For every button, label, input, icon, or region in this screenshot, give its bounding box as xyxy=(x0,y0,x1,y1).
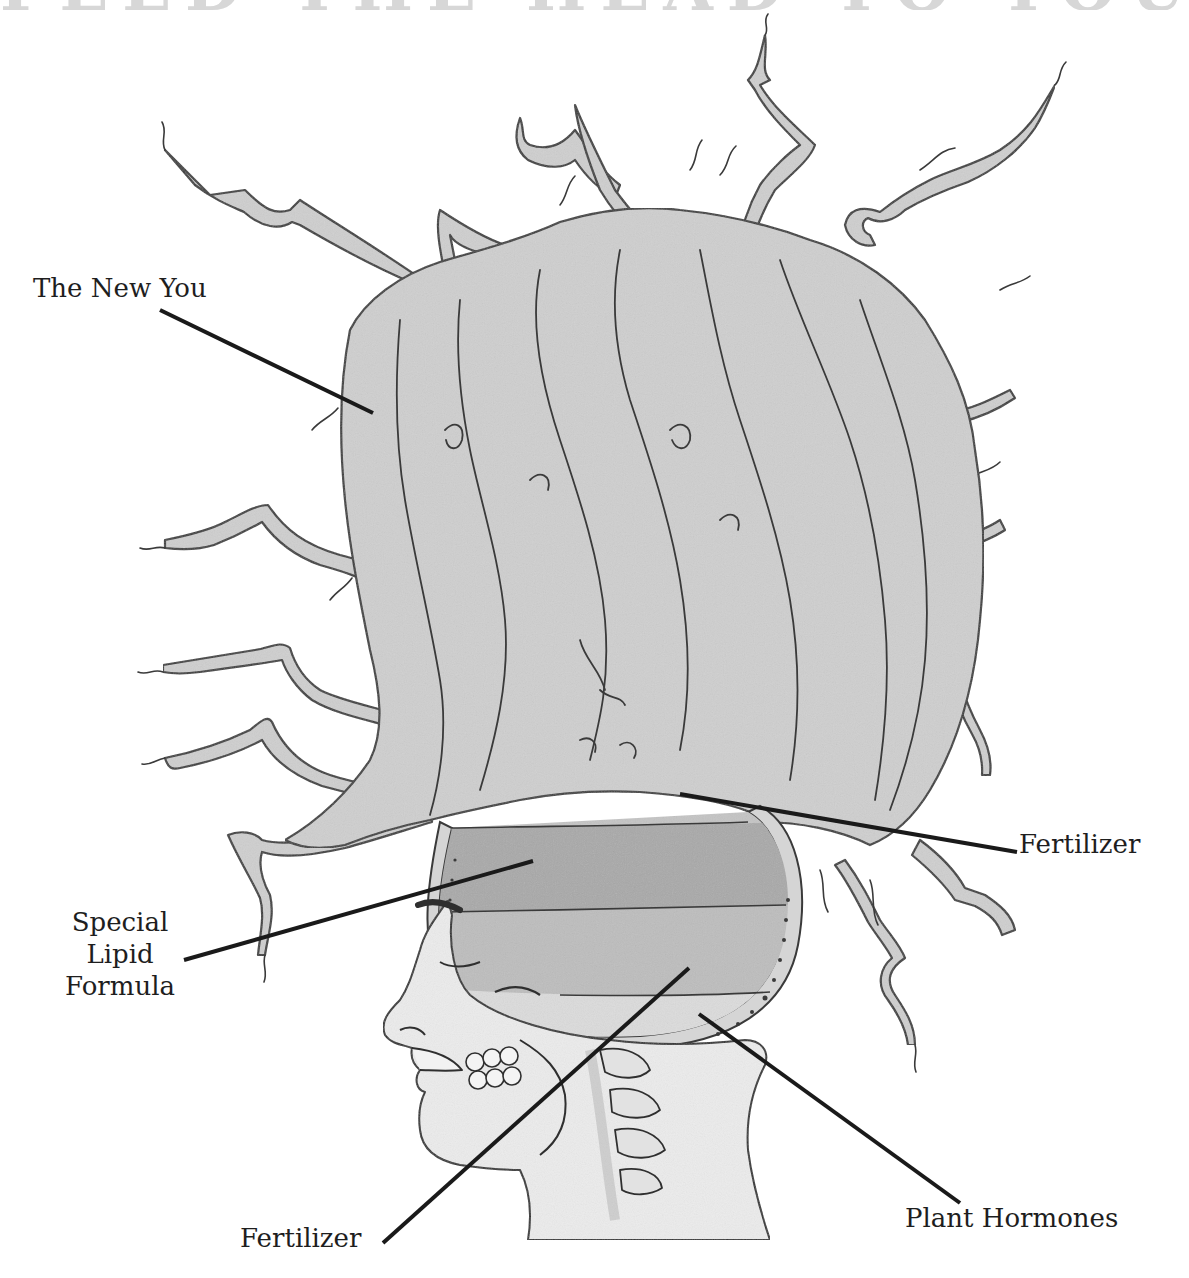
label-lipid-line-1: Special xyxy=(50,906,190,938)
branch-top-right xyxy=(845,85,1055,246)
branch-right-droop-2 xyxy=(835,860,915,1045)
label-lipid-line-2: Lipid xyxy=(50,938,190,970)
branch-left-2 xyxy=(163,645,390,725)
illustration xyxy=(0,0,1189,1278)
diagram-canvas: FEED THE HEAD TO YOUR REALITY xyxy=(0,0,1189,1278)
layer-fertilizer-lower xyxy=(430,905,800,995)
label-the-new-you: The New You xyxy=(33,272,207,304)
branch-right-droop-1 xyxy=(912,840,1015,935)
label-lipid-line-3: Formula xyxy=(50,970,190,1002)
layer-lipid xyxy=(430,822,800,912)
label-fertilizer-upper: Fertilizer xyxy=(1019,828,1140,860)
label-special-lipid-formula: Special Lipid Formula xyxy=(50,906,190,1002)
leader-new-you xyxy=(160,310,373,413)
label-fertilizer-lower: Fertilizer xyxy=(240,1222,361,1254)
hair-mass xyxy=(285,208,983,848)
label-plant-hormones: Plant Hormones xyxy=(905,1202,1118,1234)
